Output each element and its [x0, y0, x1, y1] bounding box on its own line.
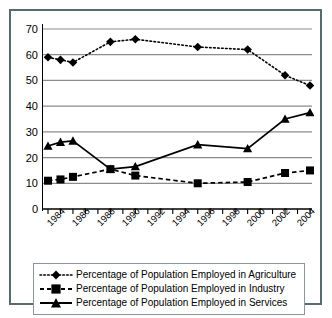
y-tick-label: 40: [18, 101, 38, 112]
y-tick-label: 0: [18, 204, 38, 215]
data-point-marker: [106, 38, 115, 47]
y-tick-label: 30: [18, 126, 38, 137]
gridlines: [42, 29, 312, 183]
data-point-marker: [305, 108, 314, 116]
y-tick-label: 50: [18, 75, 38, 86]
chart-figure: 010203040506070 198419861988199019921994…: [0, 0, 332, 318]
data-point-marker: [244, 178, 252, 186]
chart-legend: Percentage of Population Employed in Agr…: [33, 263, 305, 315]
legend-item: Percentage of Population Employed in Ind…: [39, 282, 299, 296]
y-axis: 010203040506070: [16, 23, 38, 219]
legend-item: Percentage of Population Employed in Ser…: [39, 296, 299, 310]
data-point-marker: [69, 58, 78, 67]
triangle-marker-icon: [39, 296, 73, 310]
data-point-marker: [131, 35, 140, 44]
data-point-marker: [306, 81, 314, 90]
data-point-marker: [281, 71, 290, 80]
legend-item-label: Percentage of Population Employed in Agr…: [76, 270, 296, 280]
data-point-marker: [281, 169, 289, 177]
diamond-marker-icon: [39, 268, 73, 282]
series-line: [48, 169, 310, 183]
data-point-marker: [56, 56, 65, 65]
series-line: [48, 39, 310, 85]
data-point-marker: [194, 179, 202, 187]
chart-frame: 010203040506070 198419861988199019921994…: [9, 9, 322, 305]
y-tick-label: 10: [18, 178, 38, 189]
x-axis: 1984198619881990199219941996199820002002…: [42, 221, 314, 265]
series-line: [48, 113, 310, 170]
square-marker-icon: [39, 282, 73, 296]
legend-item-label: Percentage of Population Employed in Ser…: [76, 298, 287, 308]
data-point-marker: [193, 43, 202, 52]
data-point-marker: [56, 175, 64, 183]
data-point-marker: [243, 45, 252, 54]
y-tick-label: 70: [18, 24, 38, 35]
plot-svg: [42, 23, 314, 219]
legend-item-label: Percentage of Population Employed in Ind…: [76, 284, 284, 294]
legend-item: Percentage of Population Employed in Agr…: [39, 268, 299, 282]
y-tick-label: 60: [18, 49, 38, 60]
data-point-marker: [44, 177, 52, 185]
data-point-marker: [131, 172, 139, 180]
data-point-marker: [306, 166, 314, 174]
data-point-marker: [69, 173, 77, 181]
data-series-layer: [43, 35, 314, 187]
y-tick-label: 20: [18, 152, 38, 163]
plot-area: [42, 23, 314, 219]
